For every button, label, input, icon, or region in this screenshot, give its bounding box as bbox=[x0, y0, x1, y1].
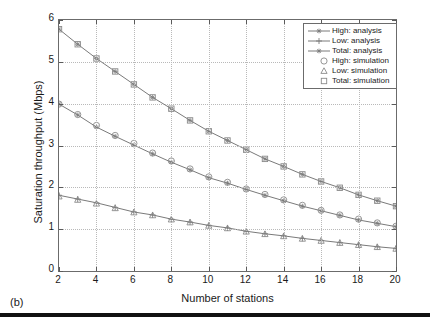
x-axis-tick bbox=[246, 20, 247, 24]
x-axis-title: Number of stations bbox=[58, 292, 397, 304]
data-point-star bbox=[263, 156, 268, 161]
gridline-horizontal bbox=[59, 229, 396, 230]
x-axis-tick bbox=[396, 267, 397, 271]
legend-item: High: analysis bbox=[306, 26, 393, 36]
series-low-analysis bbox=[59, 192, 396, 251]
data-point-star bbox=[150, 95, 155, 100]
legend-item-label: Total: simulation bbox=[332, 76, 389, 86]
x-tick-label: 14 bbox=[270, 274, 296, 285]
y-axis-tick bbox=[59, 62, 63, 63]
data-point-star bbox=[317, 29, 322, 34]
legend-item-label: Total: analysis bbox=[332, 46, 382, 56]
star-line-icon bbox=[306, 26, 332, 36]
legend-item-label: Low: analysis bbox=[332, 36, 380, 46]
y-tick-label: 6 bbox=[36, 12, 54, 23]
data-point-star bbox=[300, 172, 305, 177]
gridline-horizontal bbox=[59, 104, 396, 105]
plus-line-icon bbox=[306, 36, 332, 46]
bottom-divider bbox=[0, 313, 430, 317]
series-high-simulation bbox=[59, 101, 396, 229]
x-axis-tick bbox=[171, 267, 172, 271]
y-axis-tick bbox=[59, 20, 63, 21]
x-axis-tick bbox=[96, 267, 97, 271]
data-point-star bbox=[317, 49, 322, 54]
x-tick-label: 20 bbox=[382, 274, 408, 285]
y-axis-tick bbox=[59, 104, 63, 105]
gridline-horizontal bbox=[59, 146, 396, 147]
legend-item: Total: simulation bbox=[306, 76, 393, 86]
legend-item-label: Low: simulation bbox=[332, 66, 387, 76]
legend-item: Low: analysis bbox=[306, 36, 393, 46]
x-axis-tick bbox=[134, 267, 135, 271]
figure-caption: (b) bbox=[10, 296, 23, 308]
data-point-star bbox=[75, 42, 80, 47]
triangle-marker-icon bbox=[306, 66, 332, 76]
legend-item-label: High: analysis bbox=[332, 26, 382, 36]
y-axis-tick bbox=[392, 146, 396, 147]
y-axis-tick bbox=[392, 229, 396, 230]
x-tick-label: 18 bbox=[345, 274, 371, 285]
y-axis-tick bbox=[59, 229, 63, 230]
x-tick-label: 8 bbox=[157, 274, 183, 285]
y-axis-tick bbox=[59, 271, 63, 272]
data-point-circle bbox=[321, 58, 327, 64]
y-axis-tick bbox=[392, 187, 396, 188]
x-axis-tick bbox=[284, 20, 285, 24]
figure-panel: 2468101214161820 0123456 Number of stati… bbox=[0, 0, 430, 321]
legend-item-label: High: simulation bbox=[332, 56, 389, 66]
series-high-analysis bbox=[59, 102, 396, 229]
x-axis-tick bbox=[171, 20, 172, 24]
circle-marker-icon bbox=[306, 56, 332, 66]
x-axis-tick bbox=[246, 267, 247, 271]
x-tick-label: 12 bbox=[232, 274, 258, 285]
data-point-square bbox=[321, 78, 326, 83]
x-axis-tick bbox=[209, 267, 210, 271]
y-axis-tick bbox=[392, 104, 396, 105]
legend-item: Low: simulation bbox=[306, 66, 393, 76]
x-tick-label: 10 bbox=[195, 274, 221, 285]
x-axis-tick bbox=[209, 20, 210, 24]
square-marker-icon bbox=[306, 76, 332, 86]
x-tick-label: 2 bbox=[45, 274, 71, 285]
x-tick-label: 6 bbox=[120, 274, 146, 285]
legend-item: Total: analysis bbox=[306, 46, 393, 56]
data-point-star bbox=[375, 198, 380, 203]
data-point-plus bbox=[316, 38, 322, 44]
x-tick-label: 16 bbox=[307, 274, 333, 285]
y-tick-label: 0 bbox=[36, 263, 54, 274]
data-point-star bbox=[188, 118, 193, 123]
y-axis-title: Saturation throughput (Mbps) bbox=[32, 52, 44, 252]
x-axis-tick bbox=[96, 20, 97, 24]
y-axis-tick bbox=[59, 187, 63, 188]
series-low-simulation bbox=[59, 193, 396, 251]
x-axis-tick bbox=[284, 267, 285, 271]
data-point-star bbox=[113, 69, 118, 74]
x-axis-tick bbox=[134, 20, 135, 24]
data-point-star bbox=[394, 204, 396, 209]
x-tick-label: 4 bbox=[82, 274, 108, 285]
gridline-horizontal bbox=[59, 187, 396, 188]
data-point-star bbox=[225, 138, 230, 143]
y-axis-tick bbox=[392, 271, 396, 272]
star-line-icon bbox=[306, 46, 332, 56]
chart-legend: High: analysisLow: analysisTotal: analys… bbox=[303, 23, 397, 89]
data-point-triangle bbox=[321, 68, 327, 74]
x-axis-tick bbox=[321, 267, 322, 271]
x-axis-tick bbox=[359, 267, 360, 271]
y-axis-tick bbox=[59, 146, 63, 147]
legend-item: High: simulation bbox=[306, 56, 393, 66]
y-axis-tick bbox=[392, 20, 396, 21]
